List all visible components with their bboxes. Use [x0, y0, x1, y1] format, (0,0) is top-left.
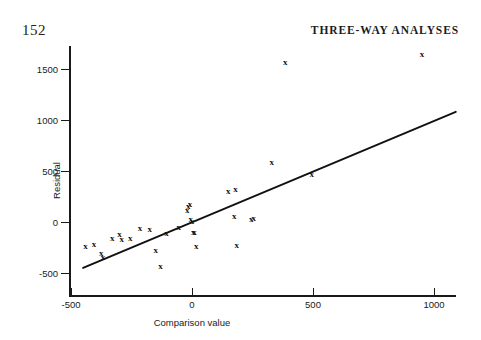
data-point-marker: x [147, 224, 152, 233]
data-point-marker: x [120, 235, 125, 244]
data-point-marker: x [83, 242, 88, 251]
data-point-marker: x [101, 253, 106, 262]
data-point-marker: x [176, 223, 181, 232]
data-point-marker: x [270, 157, 275, 166]
data-point-marker: x [232, 211, 237, 220]
data-point-marker: x [153, 246, 158, 255]
data-point-marker: x [283, 57, 288, 66]
data-point-marker: x [235, 241, 240, 250]
data-point-marker: x [164, 229, 169, 238]
data-point-marker: x [233, 185, 238, 194]
data-point-marker: x [128, 234, 133, 243]
data-point-marker: x [110, 234, 115, 243]
data-point-marker: x [192, 228, 197, 237]
data-point-marker: x [420, 49, 425, 58]
data-point-marker: x [158, 261, 163, 270]
data-point-marker: x [92, 239, 97, 248]
data-point-marker: x [194, 242, 199, 251]
data-point-marker: x [138, 224, 143, 233]
data-point-marker: x [226, 187, 231, 196]
data-point-marker: x [251, 213, 256, 222]
book-page: 152 THREE-WAY ANALYSES -500050010001500 … [0, 0, 481, 340]
scatter-plot: -500050010001500 -50005001000 Residual C… [0, 0, 481, 340]
data-point-marker: x [190, 216, 195, 225]
regression-line [0, 0, 481, 340]
data-point-marker: x [188, 200, 193, 209]
data-point-marker: x [310, 170, 315, 179]
